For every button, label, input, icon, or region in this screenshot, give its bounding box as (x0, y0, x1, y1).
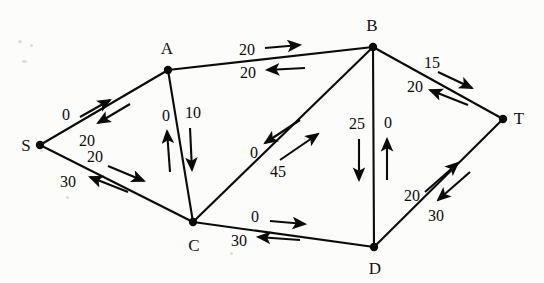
graph-node-A[interactable] (164, 66, 172, 74)
flow-label-T-to-D: 30 (428, 208, 444, 224)
node-label-D: D (369, 260, 381, 277)
flow-label-D-to-B: 0 (384, 115, 392, 131)
flow-label-B-to-C: 0 (250, 145, 258, 161)
scan-speck (66, 196, 69, 199)
flow-arrow-A-to-C (190, 128, 192, 170)
graph-edge-C-D (193, 222, 374, 247)
flow-label-S-to-A: 0 (62, 107, 70, 123)
graph-node-D[interactable] (370, 243, 378, 251)
flow-label-C-to-S: 30 (60, 174, 76, 190)
scan-speck (30, 44, 33, 47)
node-label-C: C (188, 237, 199, 254)
graph-edge-B-D (373, 47, 374, 247)
graph-node-C[interactable] (189, 218, 197, 226)
flow-arrow-A-to-S (98, 104, 130, 123)
graph-edge-A-B (168, 47, 373, 70)
scan-speck (18, 40, 22, 43)
flow-label-C-to-B: 45 (270, 164, 286, 180)
flow-label-T-to-B: 20 (407, 79, 423, 95)
node-label-S: S (21, 137, 30, 154)
flow-label-B-to-D: 25 (349, 116, 365, 132)
scan-speck (40, 150, 43, 152)
flow-label-B-to-A: 20 (240, 65, 256, 81)
flow-label-C-to-A: 0 (162, 108, 170, 124)
flow-label-C-to-D: 0 (251, 209, 259, 225)
scan-speck (230, 252, 233, 255)
graph-edge-C-B (193, 47, 373, 222)
flow-label-D-to-C: 30 (231, 233, 247, 249)
graph-edge-S-A (40, 70, 168, 145)
flow-label-A-to-C: 10 (185, 105, 201, 121)
graph-node-B[interactable] (369, 43, 377, 51)
flow-label-D-to-T: 20 (404, 188, 420, 204)
flow-arrow-A-to-B (265, 45, 300, 48)
flow-arrow-S-to-C (108, 166, 144, 181)
node-label-A: A (161, 40, 173, 57)
flow-label-A-to-B: 20 (239, 42, 255, 58)
graph-node-S[interactable] (36, 141, 44, 149)
diagram-canvas: SABCDT 0202030202001004503025015202030 (0, 0, 544, 283)
flow-label-S-to-C: 20 (87, 149, 103, 165)
flow-arrow-B-to-C (265, 120, 300, 143)
node-label-B: B (366, 17, 377, 34)
scan-speck (22, 60, 27, 63)
flow-arrow-C-to-B (280, 134, 318, 160)
flow-label-A-to-S: 20 (79, 133, 95, 149)
graph-edge-D-T (374, 119, 503, 247)
flow-arrow-S-to-A (80, 100, 110, 117)
flow-arrow-C-to-D (270, 221, 305, 224)
flow-arrow-C-to-A (167, 131, 170, 172)
flow-arrow-B-to-A (267, 68, 305, 70)
flow-arrow-D-to-C (258, 237, 300, 240)
flow-label-B-to-T: 15 (424, 55, 440, 71)
graph-node-T[interactable] (499, 115, 507, 123)
graph-edge-A-C (168, 70, 193, 222)
node-label-T: T (514, 110, 524, 127)
